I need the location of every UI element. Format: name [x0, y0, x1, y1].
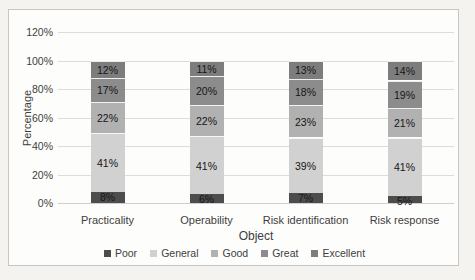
bar-segment-great: 17%	[91, 78, 125, 102]
legend-marker-great	[261, 250, 268, 257]
bar-segment-good: 23%	[289, 105, 323, 138]
legend-item-great: Great	[261, 248, 298, 259]
bar-segment-poor: 7%	[289, 193, 323, 203]
data-label: 41%	[182, 161, 232, 172]
data-label: 21%	[380, 118, 430, 129]
bar-segment-great: 20%	[190, 76, 224, 105]
legend-marker-good	[211, 250, 218, 257]
bar-segment-general: 41%	[91, 133, 125, 191]
data-label: 7%	[281, 193, 331, 204]
bar-segment-excellent: 12%	[91, 61, 125, 78]
bar-segment-general: 41%	[388, 138, 422, 196]
scanned-figure: 0%20%40%60%80%100%120% Percentage 8%41%2…	[0, 0, 475, 280]
bar-risk-response: 5%41%21%19%14%	[388, 10, 422, 203]
bar-segment-good: 21%	[388, 108, 422, 138]
y-tick-label: 120%	[17, 27, 53, 38]
bar-segment-excellent: 14%	[388, 61, 422, 81]
data-label: 12%	[83, 65, 133, 76]
x-axis-title: Object	[58, 229, 454, 243]
bar-segment-general: 41%	[190, 136, 224, 194]
legend-item-excellent: Excellent	[311, 248, 365, 259]
data-label: 14%	[380, 66, 430, 77]
data-label: 18%	[281, 87, 331, 98]
legend-item-general: General	[150, 248, 198, 259]
legend-label: Excellent	[322, 248, 365, 259]
data-label: 13%	[281, 65, 331, 76]
bar-operability: 6%41%22%20%11%	[190, 10, 224, 203]
y-tick-label: 0%	[17, 198, 53, 209]
bar-segment-great: 19%	[388, 81, 422, 108]
legend-label: Great	[272, 248, 298, 259]
bar-segment-good: 22%	[190, 105, 224, 136]
chart-frame: 0%20%40%60%80%100%120% Percentage 8%41%2…	[8, 9, 459, 266]
data-label: 41%	[83, 158, 133, 169]
legend-label: Poor	[115, 248, 137, 259]
legend-label: General	[161, 248, 198, 259]
legend-item-good: Good	[211, 248, 248, 259]
data-label: 19%	[380, 90, 430, 101]
bar-segment-poor: 8%	[91, 192, 125, 203]
bar-segment-great: 18%	[289, 79, 323, 105]
data-label: 11%	[182, 64, 232, 75]
bar-segment-general: 39%	[289, 138, 323, 194]
legend-item-poor: Poor	[104, 248, 137, 259]
bar-segment-poor: 5%	[388, 196, 422, 203]
legend-label: Good	[222, 248, 248, 259]
bar-segment-excellent: 13%	[289, 61, 323, 80]
data-label: 39%	[281, 161, 331, 172]
bar-segment-excellent: 11%	[190, 61, 224, 77]
category-label: Operability	[152, 214, 262, 226]
category-label: Risk response	[350, 214, 460, 226]
data-label: 8%	[83, 192, 133, 203]
data-label: 22%	[83, 113, 133, 124]
y-axis-title: Percentage	[21, 58, 33, 178]
data-label: 20%	[182, 86, 232, 97]
category-label: Risk identification	[251, 214, 361, 226]
data-label: 5%	[380, 196, 430, 207]
category-label: Practicality	[53, 214, 163, 226]
data-label: 22%	[182, 116, 232, 127]
data-label: 41%	[380, 162, 430, 173]
bar-segment-good: 22%	[91, 102, 125, 133]
data-label: 23%	[281, 117, 331, 128]
bar-risk-identification: 7%39%23%18%13%	[289, 10, 323, 203]
bar-practicality: 8%41%22%17%12%	[91, 10, 125, 203]
legend-marker-poor	[104, 250, 111, 257]
data-label: 6%	[182, 194, 232, 205]
legend-marker-general	[150, 250, 157, 257]
chart-legend: PoorGeneralGoodGreatExcellent	[9, 248, 460, 259]
bar-segment-poor: 6%	[190, 194, 224, 203]
data-label: 17%	[83, 85, 133, 96]
legend-marker-excellent	[311, 250, 318, 257]
